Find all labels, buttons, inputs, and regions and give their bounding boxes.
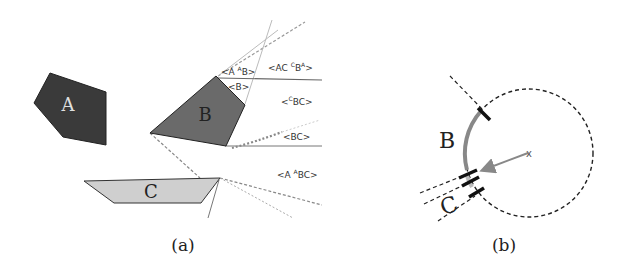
region-label-cbc: <CBC> bbox=[281, 95, 313, 107]
polygon-c-label: C bbox=[144, 181, 158, 202]
solid-ray-b-top bbox=[218, 78, 322, 80]
light-dotted-ray bbox=[282, 120, 320, 132]
panel-b: x B C (b) bbox=[420, 76, 593, 255]
region-label-a-ab: <A AB> bbox=[221, 65, 255, 77]
region-label-b: <B> bbox=[228, 82, 249, 92]
figure: A B C <A AB> <AC CBA> <B> <CBC> <BC> <A … bbox=[0, 0, 625, 279]
dashed-line-b-top bbox=[450, 76, 483, 110]
label-b: B bbox=[439, 128, 455, 153]
dashed-ray-c-right bbox=[220, 178, 322, 205]
arc-b bbox=[465, 111, 481, 170]
polygon-a-label: A bbox=[61, 94, 76, 115]
polygon-b-label: B bbox=[198, 104, 211, 125]
caption-a: (a) bbox=[171, 235, 194, 255]
label-c: C bbox=[437, 191, 461, 220]
dashed-ray-c-lower bbox=[220, 178, 293, 218]
caption-b: (b) bbox=[492, 235, 516, 255]
panel-a: A B C <A AB> <AC CBA> <B> <CBC> <BC> <A … bbox=[34, 20, 322, 255]
direction-arrow bbox=[483, 153, 528, 170]
region-label-bc: <BC> bbox=[283, 132, 310, 142]
region-label-a-abc: <A ABC> bbox=[277, 168, 318, 180]
center-marker: x bbox=[526, 148, 532, 159]
region-label-ac-cba: <AC CBA> bbox=[268, 61, 313, 73]
